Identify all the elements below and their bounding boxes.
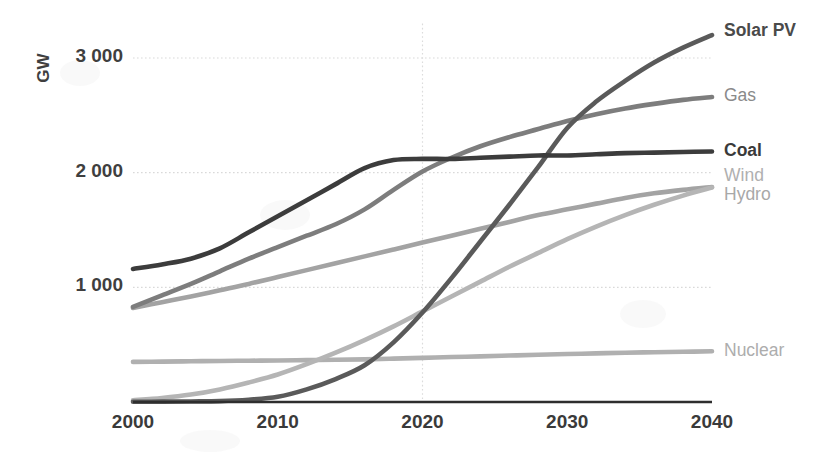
series-line-gas: [133, 97, 712, 307]
series-label-hydro: Hydro: [724, 185, 771, 203]
series-label-wind: Wind: [724, 166, 764, 184]
series-label-coal: Coal: [724, 141, 762, 159]
series-label-nuclear: Nuclear: [724, 341, 784, 359]
series-label-gas: Gas: [724, 86, 756, 104]
series-label-solar-pv: Solar PV: [724, 21, 796, 39]
chart-container: GW 1 0002 0003 000 20002010202020302040 …: [0, 0, 830, 458]
plot-area: [0, 0, 830, 458]
series-line-solar-pv: [133, 35, 712, 402]
series-lines: [133, 35, 712, 402]
